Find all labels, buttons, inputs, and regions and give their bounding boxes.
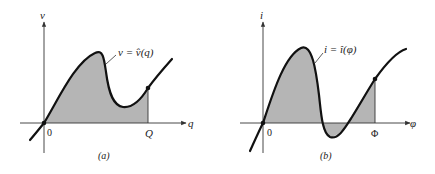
label-leader-a	[106, 55, 116, 64]
x-axis-label-b: φ	[410, 117, 416, 129]
curve-label-a: v = v̂(q)	[118, 46, 154, 59]
origin-dot-b	[261, 121, 266, 126]
q-point-dot	[146, 86, 151, 91]
end-label-q: Q	[145, 127, 153, 139]
x-axis-label-a: q	[188, 117, 194, 129]
origin-label-a: 0	[47, 127, 52, 138]
panel-b: i φ 0 Φ i = î(φ) (b)	[240, 9, 416, 162]
figure: v q 0 Q v = v̂(q) (a) i φ 0 Φ i = î(φ) (…	[0, 0, 435, 174]
phi-point-dot	[373, 77, 378, 82]
origin-label-b: 0	[267, 127, 272, 138]
end-label-phi: Φ	[371, 128, 378, 139]
label-leader-b	[315, 53, 323, 63]
shaded-area-a	[44, 52, 148, 123]
y-axis-label-b: i	[260, 9, 263, 21]
caption-b: (b)	[320, 150, 332, 162]
caption-a: (a)	[98, 150, 110, 162]
y-axis-label-a: v	[40, 9, 45, 21]
origin-dot-a	[42, 121, 47, 126]
curve-label-b: i = î(φ)	[324, 43, 357, 56]
panel-a: v q 0 Q v = v̂(q) (a)	[20, 9, 194, 162]
